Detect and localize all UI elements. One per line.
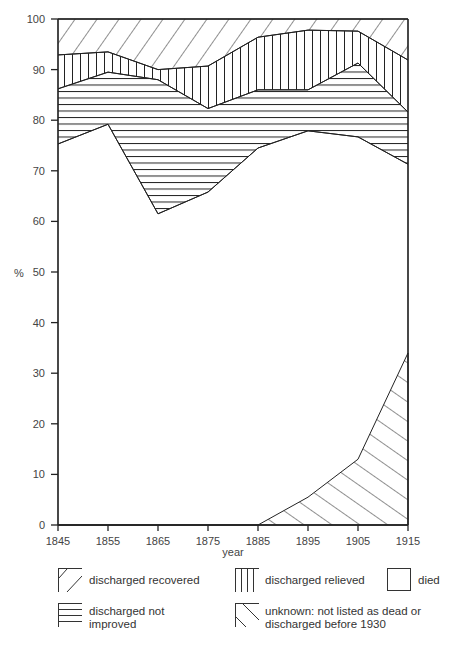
vertical-lines-swatch-icon — [235, 568, 259, 592]
blank-swatch-icon — [387, 568, 411, 592]
legend-label-died: died — [418, 574, 440, 587]
legend-label-unknown-1: unknown: not listed as dead or — [265, 605, 421, 618]
legend-label-recovered: discharged recovered — [89, 574, 200, 587]
diagonal-forward-swatch-icon — [58, 568, 82, 592]
legend-label-relieved: discharged relieved — [265, 574, 365, 587]
legend: discharged recovered discharged relieved… — [0, 0, 453, 647]
legend-label-unknown-2: discharged before 1930 — [265, 618, 386, 631]
legend-label-not-improved-2: improved — [89, 618, 136, 631]
horizontal-lines-swatch-icon — [58, 603, 82, 627]
legend-label-not-improved-1: discharged not — [89, 605, 164, 618]
diagonal-backward-swatch-icon — [235, 603, 259, 627]
